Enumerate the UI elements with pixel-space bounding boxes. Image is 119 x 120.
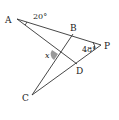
segment-cb xyxy=(32,34,73,95)
point-b-label: B xyxy=(70,23,77,33)
angle-p-value: 48° xyxy=(82,45,96,54)
segment-ap xyxy=(17,19,101,45)
point-a-label: A xyxy=(4,15,12,25)
angle-x-label: x xyxy=(45,51,50,60)
angle-a-arc xyxy=(25,22,27,25)
point-p-label: P xyxy=(104,41,110,51)
geometry-diagram: A B P C D 20° 48° x xyxy=(0,0,119,120)
point-c-label: C xyxy=(22,93,29,103)
point-d-label: D xyxy=(76,66,83,76)
angle-a-value: 20° xyxy=(33,12,47,21)
